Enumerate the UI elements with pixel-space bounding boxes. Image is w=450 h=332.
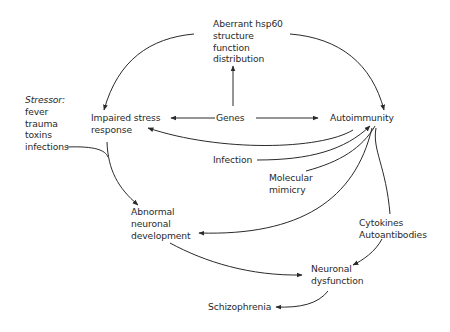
node-schizophrenia: Schizophrenia [208,301,271,313]
node-text: Autoantibodies [359,229,427,241]
edge-abnormal-to-dysfunction [170,243,302,275]
node-aberrant-hsp60: Aberrant hsp60 structure function distri… [213,18,283,65]
edge-autoimmunity-to-cytokines [375,128,390,214]
node-text: Impaired stress [91,112,160,124]
node-text: fever [25,106,69,118]
edge-cytokines-to-dysfunction [353,239,382,265]
node-text: trauma [25,118,69,130]
node-text: response [91,124,160,136]
edge-infection-to-autoimmunity [257,126,370,160]
node-text: dysfunction [311,275,364,287]
node-stressor: Stressor: fever trauma toxins infections [25,94,69,153]
node-text: distribution [213,53,283,65]
node-text: Schizophrenia [208,301,271,313]
node-text: Molecular [269,172,313,184]
node-infection: Infection [213,154,252,166]
node-autoimmunity: Autoimmunity [330,112,394,124]
node-molecular-mimicry: Molecular mimicry [269,172,313,196]
node-text: Genes [216,112,245,124]
node-text: Abnormal [131,206,191,218]
node-text: Infection [213,154,252,166]
edge-autoimmunity-to-impaired [148,128,353,146]
node-impaired-stress-response: Impaired stress response [91,112,160,136]
node-text: function [213,42,283,54]
edge-dysfunction-to-schizophrenia [276,291,328,307]
node-text: Aberrant hsp60 [213,18,283,30]
node-text: Cytokines [359,217,427,229]
node-text: Autoimmunity [330,112,394,124]
stressor-heading: Stressor: [25,94,69,106]
edge-impaired-to-abnormal [107,142,138,205]
node-text: infections [25,141,69,153]
node-text: neuronal [131,218,191,230]
node-genes: Genes [216,112,245,124]
node-neuronal-dysfunction: Neuronal dysfunction [311,263,364,287]
node-text: Neuronal [311,263,364,275]
node-cytokines-autoantibodies: Cytokines Autoantibodies [359,217,427,241]
edge-hsp60-to-autoimmunity [290,34,384,110]
node-text: development [131,230,191,242]
edge-mimicry-to-autoimmunity [306,126,375,171]
node-text: mimicry [269,184,313,196]
diagram-canvas: Aberrant hsp60 structure function distri… [0,0,450,332]
node-text: structure [213,30,283,42]
node-text: toxins [25,129,69,141]
edge-hsp60-to-impaired [104,34,194,110]
node-abnormal-neuronal-development: Abnormal neuronal development [131,206,191,241]
edge-stressor-to-abnormal [67,147,108,157]
